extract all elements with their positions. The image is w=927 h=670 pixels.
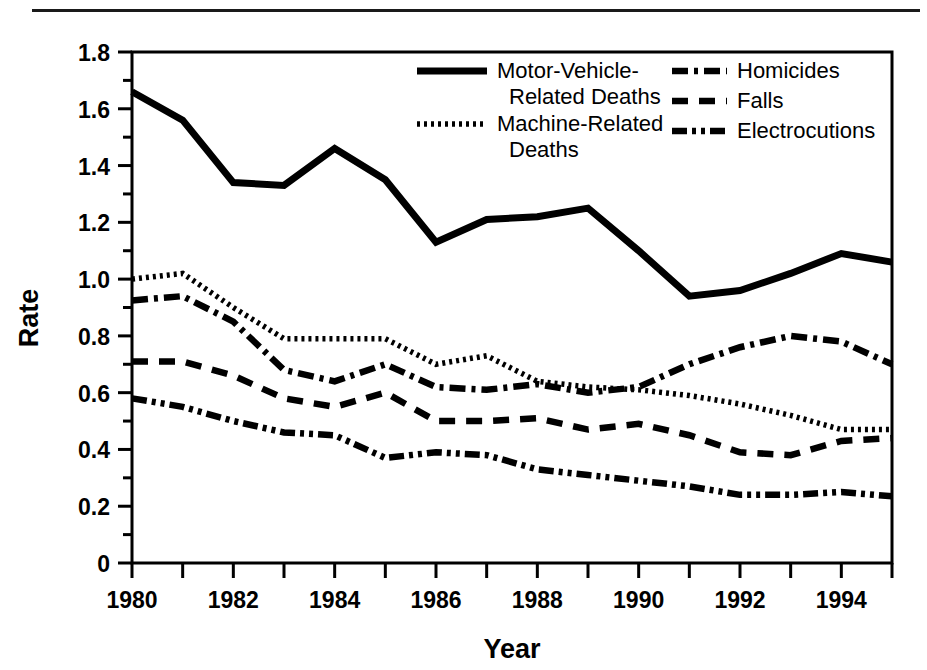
line-chart: 00.20.40.60.81.01.21.41.61.8 19801982198…: [0, 0, 927, 670]
x-tick-label: 1990: [613, 587, 664, 613]
y-tick-label: 1.8: [78, 40, 110, 66]
y-tick-label: 1.6: [78, 97, 110, 123]
x-tick-label: 1982: [208, 587, 259, 613]
legend-label-4: Electrocutions: [737, 118, 875, 143]
y-tick-label: 1.4: [78, 154, 110, 180]
y-axis-title: Rate: [14, 289, 44, 348]
x-tick-label: 1984: [309, 587, 360, 613]
y-tick-label: 1.2: [78, 210, 110, 236]
legend-label-0-line2: Related Deaths: [509, 84, 661, 109]
y-tick-label: 0: [97, 551, 110, 577]
x-axis-ticks: [132, 563, 892, 578]
y-axis-tick-labels: 00.20.40.60.81.01.21.41.61.8: [78, 40, 110, 577]
legend-label-1: Machine-Related: [497, 111, 663, 136]
series-line-1: [132, 273, 892, 429]
legend-label-1-line2: Deaths: [509, 137, 579, 162]
x-tick-label: 1988: [512, 587, 563, 613]
chart-canvas: 00.20.40.60.81.01.21.41.61.8 19801982198…: [0, 0, 927, 670]
x-tick-label: 1986: [410, 587, 461, 613]
legend-label-2: Homicides: [737, 58, 840, 83]
x-axis-title: Year: [483, 634, 541, 664]
x-axis-tick-labels: 19801982198419861988199019921994: [106, 587, 867, 613]
figure-root: 00.20.40.60.81.01.21.41.61.8 19801982198…: [0, 0, 927, 670]
y-tick-label: 0.2: [78, 494, 110, 520]
y-tick-label: 0.6: [78, 381, 110, 407]
y-axis-ticks: [118, 52, 132, 563]
chart-legend: Motor-Vehicle-Related DeathsMachine-Rela…: [417, 58, 875, 162]
x-tick-label: 1994: [816, 587, 867, 613]
legend-label-3: Falls: [737, 88, 783, 113]
series-line-3: [132, 361, 892, 455]
y-tick-label: 0.8: [78, 324, 110, 350]
x-tick-label: 1980: [106, 587, 157, 613]
legend-label-0: Motor-Vehicle-: [497, 58, 639, 83]
x-tick-label: 1992: [714, 587, 765, 613]
y-tick-label: 1.0: [78, 267, 110, 293]
y-tick-label: 0.4: [78, 437, 110, 463]
